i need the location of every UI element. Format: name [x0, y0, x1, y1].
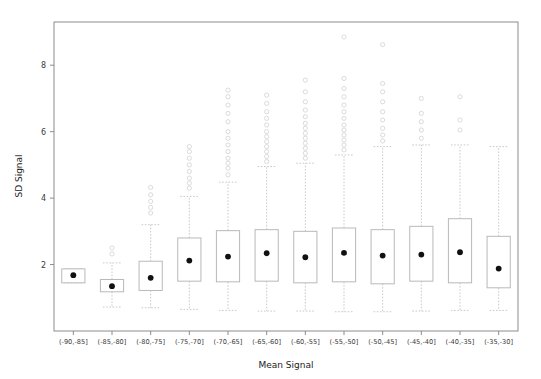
mean-marker: [380, 253, 386, 259]
outlier-point: [187, 169, 191, 173]
outlier-point: [419, 136, 423, 140]
outlier-point: [149, 205, 153, 209]
outlier-point: [226, 95, 230, 99]
outlier-point: [303, 131, 307, 135]
x-tick-label: (-60,-55]: [291, 338, 320, 346]
box-group: [216, 88, 239, 310]
outlier-point: [303, 151, 307, 155]
outlier-point: [265, 116, 269, 120]
mean-marker: [302, 254, 308, 260]
outlier-point: [381, 100, 385, 104]
x-tick-label: (-55,-50]: [330, 338, 359, 346]
outlier-point: [342, 138, 346, 142]
outlier-point: [303, 141, 307, 145]
mean-marker: [264, 250, 270, 256]
y-tick-label: 8: [41, 61, 46, 70]
outlier-point: [187, 156, 191, 160]
outlier-point: [381, 42, 385, 46]
outlier-point: [419, 111, 423, 115]
outlier-point: [303, 108, 307, 112]
x-tick-label: (-45,-40]: [407, 338, 436, 346]
box-group: [332, 35, 355, 312]
outlier-point: [342, 103, 346, 107]
mean-marker: [186, 258, 192, 264]
outlier-point: [303, 146, 307, 150]
outlier-point: [226, 143, 230, 147]
mean-marker: [457, 249, 463, 255]
outlier-point: [303, 121, 307, 125]
outlier-point: [381, 110, 385, 114]
box-group: [178, 144, 201, 309]
outlier-point: [265, 130, 269, 134]
outlier-point: [342, 123, 346, 127]
box-series: [62, 35, 511, 312]
outlier-point: [265, 93, 269, 97]
outlier-point: [458, 118, 462, 122]
y-tick-label: 6: [41, 128, 46, 137]
outlier-point: [303, 90, 307, 94]
outlier-point: [187, 186, 191, 190]
outlier-point: [265, 101, 269, 105]
outlier-point: [226, 156, 230, 160]
plot-canvas: 2468 (-90,-85](-85,-80](-80,-75](-75,-70…: [0, 0, 541, 379]
mean-marker: [341, 250, 347, 256]
outlier-point: [381, 118, 385, 122]
outlier-point: [342, 95, 346, 99]
outlier-point: [265, 123, 269, 127]
outlier-point: [149, 185, 153, 189]
box-group: [410, 96, 433, 311]
outlier-point: [226, 111, 230, 115]
box-group: [100, 246, 123, 307]
outlier-point: [303, 136, 307, 140]
outlier-point: [342, 128, 346, 132]
x-tick-label: (-40,-35]: [446, 338, 475, 346]
outlier-point: [187, 176, 191, 180]
x-tick-label: (-75,-70]: [175, 338, 204, 346]
outlier-point: [458, 95, 462, 99]
outlier-point: [187, 163, 191, 167]
outlier-point: [226, 149, 230, 153]
outlier-point: [381, 139, 385, 143]
box-group: [62, 269, 85, 283]
outlier-point: [342, 143, 346, 147]
boxplot-chart: 2468 (-90,-85](-85,-80](-80,-75](-75,-70…: [0, 0, 541, 379]
outlier-point: [226, 161, 230, 165]
x-tick-label: (-90,-85]: [59, 338, 88, 346]
outlier-point: [342, 133, 346, 137]
outlier-point: [419, 120, 423, 124]
box-group: [487, 147, 510, 311]
outlier-point: [381, 133, 385, 137]
outlier-point: [187, 181, 191, 185]
x-tick-label: (-35,-30]: [484, 338, 513, 346]
box-group: [371, 42, 394, 311]
y-tick-label: 2: [41, 261, 46, 270]
outlier-point: [419, 96, 423, 100]
outlier-point: [226, 88, 230, 92]
outlier-point: [226, 173, 230, 177]
outlier-point: [187, 149, 191, 153]
outlier-point: [342, 110, 346, 114]
x-tick-label: (-80,-75]: [136, 338, 165, 346]
outlier-point: [226, 166, 230, 170]
mean-marker: [109, 283, 115, 289]
outlier-point: [149, 199, 153, 203]
outlier-point: [265, 149, 269, 153]
outlier-point: [303, 100, 307, 104]
outlier-point: [265, 144, 269, 148]
outlier-point: [303, 126, 307, 130]
outlier-point: [342, 116, 346, 120]
x-tick-label: (-70,-65]: [214, 338, 243, 346]
mean-marker: [225, 254, 231, 260]
outlier-point: [226, 103, 230, 107]
outlier-point: [226, 120, 230, 124]
outlier-point: [342, 86, 346, 90]
outlier-point: [265, 154, 269, 158]
outlier-point: [265, 140, 269, 144]
outlier-point: [342, 76, 346, 80]
outlier-point: [226, 136, 230, 140]
mean-marker: [418, 252, 424, 258]
outlier-point: [187, 144, 191, 148]
mean-marker: [70, 272, 76, 278]
y-tick-label: 4: [41, 194, 46, 203]
y-axis-ticks: 2468: [41, 61, 54, 269]
